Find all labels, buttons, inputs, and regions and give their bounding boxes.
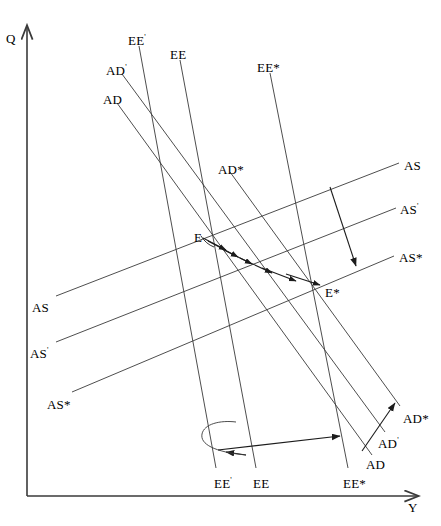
ad-curve-group xyxy=(117,74,400,455)
label-ad-prime-bottom: AD' xyxy=(378,437,399,450)
label-ad-star-bottom-text: AD* xyxy=(403,411,429,426)
label-ad-star-mid-text: AD* xyxy=(218,162,244,177)
label-ee-star-top: EE* xyxy=(257,61,280,74)
label-ad-prime-top-text: AD xyxy=(106,63,125,78)
axis-group xyxy=(27,26,418,496)
ee-curve-group xyxy=(139,46,348,468)
adjustment-arrow-4 xyxy=(240,258,272,273)
label-ee-prime-bottom-text: EE xyxy=(214,476,230,491)
label-ad-star-mid: AD* xyxy=(218,163,244,176)
label-ee-star-bottom: EE* xyxy=(343,477,366,490)
label-ee-top-text: EE xyxy=(170,47,186,62)
label-as-star-left: AS* xyxy=(47,398,71,411)
label-ad-top: AD xyxy=(103,93,122,106)
label-ad-star-bottom: AD* xyxy=(403,412,429,425)
ad-curve xyxy=(117,103,372,455)
label-ee-top: EE xyxy=(170,48,186,61)
as-shift-arrow-line xyxy=(330,187,356,266)
label-ad-bottom-text: AD xyxy=(366,457,385,472)
economics-diagram-figure: Q Y EE' EE AD' AD EE* AD* AS AS' AS* AS … xyxy=(0,0,441,526)
ee-star-curve xyxy=(270,73,348,468)
as-downward-shift-arrow xyxy=(330,187,356,266)
label-ad-top-text: AD xyxy=(103,92,122,107)
label-as-left-text: AS xyxy=(32,300,49,315)
label-ad-prime-top-sup: ' xyxy=(125,63,127,72)
label-as-prime-left-text: AS xyxy=(30,346,47,361)
ee-right-arrow-line xyxy=(218,436,340,450)
label-as-star-right-text: AS* xyxy=(399,250,423,265)
label-ee-prime-top-text: EE xyxy=(128,33,144,48)
label-as-star-right: AS* xyxy=(399,251,423,264)
label-ee-bottom: EE xyxy=(253,477,269,490)
label-ee-prime-bottom: EE' xyxy=(214,477,232,490)
ee-curve xyxy=(180,60,256,468)
label-as-right: AS xyxy=(404,159,421,172)
label-ee-prime-top: EE' xyxy=(128,34,146,47)
as-curve-group xyxy=(56,163,399,392)
adjustment-arrow-5 xyxy=(262,268,296,281)
label-ad-prime-bottom-sup: ' xyxy=(397,436,399,445)
label-equilibrium-E: E xyxy=(194,231,202,244)
label-as-left: AS xyxy=(32,301,49,314)
label-as-star-left-text: AS* xyxy=(47,397,71,412)
label-as-prime-left-sup: ' xyxy=(47,346,49,355)
x-axis-label: Y xyxy=(408,500,417,516)
label-ee-prime-top-sup: ' xyxy=(144,33,146,42)
as-star-curve xyxy=(72,256,394,392)
label-as-right-text: AS xyxy=(404,158,421,173)
label-as-prime-right-text: AS xyxy=(400,202,417,217)
label-ee-star-top-text: EE* xyxy=(257,60,280,75)
label-ee-prime-bottom-sup: ' xyxy=(230,476,232,485)
y-axis-label: Q xyxy=(6,31,15,47)
label-ad-prime-top: AD' xyxy=(106,64,127,77)
label-ad-bottom: AD xyxy=(366,458,385,471)
as-prime-curve xyxy=(56,208,396,342)
label-as-prime-right-sup: ' xyxy=(417,202,419,211)
label-equilibrium-E-star: E* xyxy=(325,286,340,299)
ad-prime-curve xyxy=(122,74,385,432)
label-ee-star-bottom-text: EE* xyxy=(343,476,366,491)
ee-prime-curve xyxy=(139,46,216,468)
ee-rightward-arrow xyxy=(218,436,340,450)
label-as-prime-right: AS' xyxy=(400,203,419,216)
diagram-canvas xyxy=(0,0,441,526)
label-equilibrium-E-text: E xyxy=(194,230,202,245)
label-as-prime-left: AS' xyxy=(30,347,49,360)
label-ee-bottom-text: EE xyxy=(253,476,269,491)
label-equilibrium-E-star-text: E* xyxy=(325,285,340,300)
label-ad-prime-bottom-text: AD xyxy=(378,436,397,451)
